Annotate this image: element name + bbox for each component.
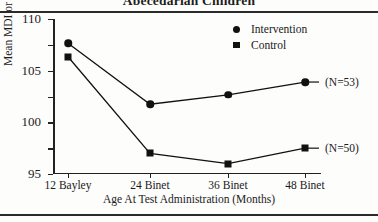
data-point-control-0	[65, 53, 72, 60]
x-tick-label-1: 24 Binet	[130, 179, 169, 191]
x-tick-label-2: 36 Binet	[208, 179, 247, 191]
legend-label-control: Control	[251, 37, 286, 53]
n-annotation-control: (N=50)	[325, 142, 359, 154]
y-tick-label-100: 100	[22, 114, 42, 130]
legend-label-intervention: Intervention	[251, 21, 307, 37]
y-tick-label-90: 90	[28, 218, 41, 222]
line-control	[68, 57, 305, 164]
legend-item-intervention: Intervention	[233, 21, 307, 37]
x-tick-label-3: 48 Binet	[285, 179, 324, 191]
data-point-control-3	[302, 145, 309, 152]
data-point-intervention-0	[64, 40, 72, 48]
square-marker-icon	[233, 42, 251, 49]
data-point-intervention-1	[146, 101, 154, 109]
n-annotation-intervention: (N=53)	[325, 76, 359, 88]
x-axis-title: Age At Test Administration (Months)	[0, 193, 378, 205]
legend-item-control: Control	[233, 37, 307, 53]
y-axis-title: Mean MDI or IQ	[2, 50, 14, 66]
data-point-control-1	[147, 150, 154, 157]
y-tick-label-105: 105	[22, 63, 42, 79]
figure-title: Abecedarian Children	[0, 0, 378, 8]
figure-container: Abecedarian Children Mean MDI or IQ Age …	[0, 0, 378, 222]
circle-marker-icon	[233, 26, 251, 33]
y-tick-label-95: 95	[28, 166, 41, 182]
data-point-intervention-2	[224, 91, 232, 99]
bottom-rule	[0, 214, 378, 216]
chart-legend: Intervention Control	[233, 21, 307, 53]
data-point-intervention-3	[301, 78, 309, 86]
top-rule	[0, 11, 378, 13]
data-point-control-2	[225, 160, 232, 167]
x-tick-label-0: 12 Bayley	[45, 179, 92, 191]
y-tick-80: 80	[48, 174, 53, 175]
y-tick-label-110: 110	[22, 11, 41, 27]
